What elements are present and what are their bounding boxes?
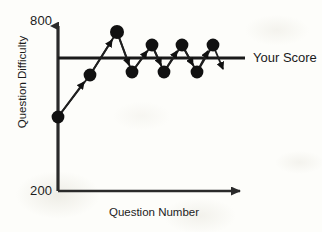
y-axis-tick-min: 200 [30, 183, 52, 198]
difficulty-data-points [52, 25, 220, 123]
data-point [110, 25, 124, 39]
data-point [52, 111, 65, 124]
your-score-label: Your Score [253, 50, 317, 65]
data-point [207, 39, 220, 52]
data-point [176, 39, 189, 52]
chart-figure: 800 200 Question Difficulty Question Num… [0, 0, 322, 232]
data-point [84, 69, 97, 82]
data-point [126, 66, 139, 79]
x-axis-title: Question Number [58, 206, 250, 218]
data-point [146, 39, 159, 52]
y-axis-title: Question Difficulty [16, 22, 28, 142]
y-axis-tick-max: 800 [30, 13, 52, 28]
data-point [191, 66, 204, 79]
data-point [158, 66, 171, 79]
